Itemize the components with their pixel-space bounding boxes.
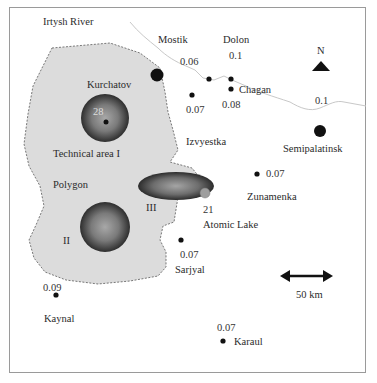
dolon-dot bbox=[228, 76, 233, 81]
mostik-value: 0.06 bbox=[180, 56, 198, 68]
chagan-dot bbox=[228, 86, 233, 91]
chagan-label: Chagan bbox=[239, 84, 271, 96]
zone-1-value: 28 bbox=[93, 106, 104, 118]
zone-2 bbox=[80, 202, 130, 252]
atomic-lake-marker bbox=[200, 188, 210, 198]
village-007-dot bbox=[189, 92, 194, 97]
mostik-label: Mostik bbox=[158, 34, 188, 46]
technical-area-label: Technical area I bbox=[53, 148, 120, 160]
village-value: 0.07 bbox=[186, 104, 204, 116]
semipalatinsk-value: 0.1 bbox=[315, 95, 328, 107]
mostik-dot bbox=[206, 76, 211, 81]
dolon-value: 0.1 bbox=[229, 50, 242, 62]
kurchatov-marker bbox=[151, 69, 164, 82]
kaynal-value: 0.09 bbox=[43, 282, 61, 294]
sarjyal-value: 0.07 bbox=[180, 249, 198, 261]
north-label: N bbox=[317, 45, 325, 57]
scale-label: 50 km bbox=[296, 289, 323, 301]
kaynal-label: Kaynal bbox=[44, 313, 74, 325]
zunamenka-value: 0.07 bbox=[266, 168, 284, 180]
atomic-lake-label: Atomic Lake bbox=[203, 219, 258, 231]
karaul-value: 0.07 bbox=[217, 322, 235, 334]
north-arrow-icon bbox=[312, 61, 330, 71]
sarjyal-dot bbox=[178, 237, 183, 242]
chagan-value: 0.08 bbox=[222, 99, 240, 111]
atomic-lake-value: 21 bbox=[203, 204, 214, 216]
kurchatov-label: Kurchatov bbox=[87, 79, 131, 91]
sarjyal-label: Sarjyal bbox=[175, 264, 205, 276]
scale-bar-icon bbox=[280, 270, 333, 282]
dolon-label: Dolon bbox=[223, 34, 249, 46]
semipalatinsk-marker bbox=[314, 125, 326, 137]
zone-technical-area-1 bbox=[81, 94, 129, 142]
semipalatinsk-label: Semipalatinsk bbox=[283, 143, 343, 155]
zone-2-label: II bbox=[63, 235, 70, 247]
polygon-label: Polygon bbox=[53, 179, 88, 191]
karaul-dot bbox=[220, 338, 225, 343]
ground-zero-marker bbox=[104, 120, 109, 125]
izvyestka-label: Izvyestka bbox=[186, 136, 226, 148]
karaul-label: Karaul bbox=[234, 336, 263, 348]
zone-3-label: III bbox=[146, 202, 157, 214]
river-label: Irtysh River bbox=[43, 16, 93, 28]
zunamenka-dot bbox=[254, 171, 259, 176]
zunamenka-label: Zunamenka bbox=[247, 191, 297, 203]
